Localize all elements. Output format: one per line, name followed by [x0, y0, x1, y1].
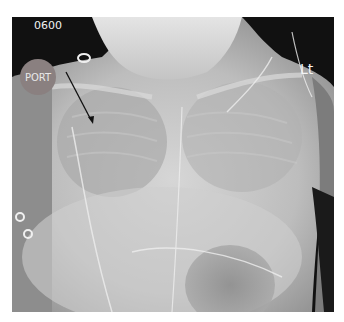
timestamp-label: 0600: [34, 19, 62, 32]
port-marker: PORT: [20, 59, 56, 95]
chest-xray-image: 0600 PORT Lt: [12, 17, 334, 312]
laterality-marker: Lt: [300, 61, 313, 77]
port-label: PORT: [25, 72, 51, 83]
xray-rendering: [12, 17, 334, 312]
